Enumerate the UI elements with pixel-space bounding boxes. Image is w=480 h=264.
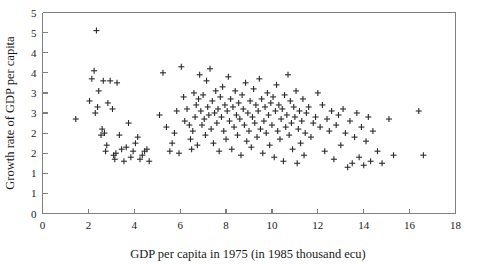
y-tick-label: 4 [31, 67, 37, 79]
y-tick-label: 3 [31, 107, 37, 119]
y-tick-label: 2 [31, 147, 37, 159]
y-tick-label: 1 [31, 167, 37, 179]
x-tick-label: 18 [450, 219, 462, 231]
y-axis-title: Growth rate of GDP per capita [3, 36, 17, 190]
x-tick-label: 12 [312, 219, 323, 231]
y-tick-label: 4 [31, 47, 37, 59]
x-tick-label: 4 [132, 219, 138, 231]
y-tick-label: 5 [31, 27, 37, 39]
x-tick-label: 8 [223, 219, 229, 231]
y-tick-label: 0 [31, 208, 37, 220]
y-tick-label: 5 [31, 7, 37, 19]
x-tick-label: 0 [40, 219, 46, 231]
chart-canvas: 024681012141618 01122334455 GDP per capi… [0, 0, 480, 264]
y-tick-label: 2 [31, 127, 37, 139]
x-tick-label: 6 [177, 219, 183, 231]
x-axis-title: GDP per capita in 1975 (in 1985 thousand… [130, 247, 366, 261]
x-tick-label: 10 [266, 219, 278, 231]
x-tick-label: 14 [358, 219, 370, 231]
y-tick-label: 1 [31, 187, 37, 199]
x-tick-label: 16 [404, 219, 416, 231]
x-tick-label: 2 [86, 219, 92, 231]
scatter-chart: 024681012141618 01122334455 GDP per capi… [0, 0, 480, 264]
y-tick-label: 3 [31, 87, 37, 99]
